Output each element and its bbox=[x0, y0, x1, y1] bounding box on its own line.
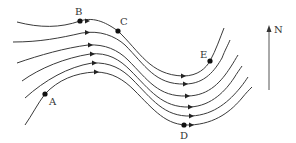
arrow-icon bbox=[181, 74, 186, 79]
label-C: C bbox=[120, 16, 128, 27]
arrow-icon bbox=[189, 123, 194, 128]
arrow-icon bbox=[90, 52, 95, 57]
arrow-icon bbox=[183, 82, 188, 87]
label-B: B bbox=[75, 6, 82, 17]
arrow-icon bbox=[189, 114, 194, 119]
north-label: N bbox=[274, 24, 283, 35]
point-C: C bbox=[115, 16, 128, 34]
streamline-2 bbox=[13, 32, 230, 84]
arrow-icon bbox=[88, 43, 93, 48]
arrow-icon bbox=[85, 30, 90, 35]
streamline-6 bbox=[25, 72, 252, 125]
streamline-1 bbox=[17, 19, 224, 76]
point-A: A bbox=[42, 91, 57, 107]
label-E: E bbox=[200, 49, 207, 60]
arrow-icon bbox=[94, 70, 99, 75]
label-D: D bbox=[180, 130, 188, 141]
arrow-icon bbox=[92, 61, 97, 66]
arrow-icon bbox=[188, 105, 193, 110]
point-B: B bbox=[75, 6, 83, 24]
point-E: E bbox=[200, 49, 213, 64]
north-arrowhead-icon bbox=[267, 25, 272, 32]
streamline-5 bbox=[25, 63, 248, 116]
flow-arrows bbox=[85, 19, 194, 128]
north-arrow: N bbox=[267, 24, 284, 90]
arrow-icon bbox=[185, 94, 190, 99]
streamline-diagram: A B C D E N bbox=[0, 0, 296, 143]
label-A: A bbox=[48, 96, 57, 107]
